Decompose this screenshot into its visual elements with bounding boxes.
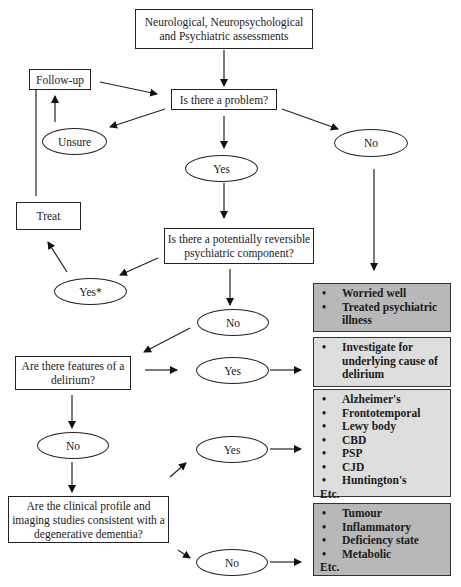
psychiatric-no-label: No [226,317,240,329]
outcome-degenerative-dementias: Alzheimer's Frontotemporal Lewy body CBD… [313,389,451,497]
outcome-item: Metabolic [320,548,444,562]
outcome-item: Treated psychiatric illness [320,301,444,328]
outcome-item: CBD [320,434,444,448]
unsure-label: Unsure [58,136,91,148]
follow-up-label: Follow-up [36,73,84,87]
question-degenerative-dementia: Are the clinical profile and imaging stu… [8,496,169,543]
outcome-item: Inflammatory [320,521,444,535]
treat-node: Treat [16,202,81,230]
outcome-etc: Etc. [320,561,444,575]
psychiatric-yes-label: Yes* [79,286,101,298]
delirium-no-oval: No [37,432,109,459]
degenerative-no-oval: No [196,549,268,576]
outcome-item: Lewy body [320,420,444,434]
degenerative-no-label: No [225,557,239,569]
outcome-item: Worried well [320,287,444,301]
delirium-no-label: No [66,440,80,452]
outcome-item: Huntington's [320,474,444,488]
question-delirium: Are there features of a delirium? [15,356,131,390]
delirium-yes-oval: Yes [196,357,269,384]
outcome-worried-well: Worried well Treated psychiatric illness [313,283,451,332]
treat-label: Treat [37,209,61,223]
question-is-there-a-problem: Is there a problem? [171,89,277,110]
outcome-delirium: Investigate for underlying cause of deli… [313,337,451,387]
question-label: Are the clinical profile and imaging stu… [9,499,168,541]
start-node-label: Neurological, Neuropsychological and Psy… [136,15,312,43]
question-psychiatric-component: Is there a potentially reversible psychi… [164,228,314,264]
psychiatric-yes-oval: Yes* [54,278,127,305]
outcome-other-causes: Tumour Inflammatory Deficiency state Met… [313,503,451,576]
outcome-item: Tumour [320,507,444,521]
problem-no-oval: No [334,129,408,157]
outcome-item: Investigate for underlying cause of deli… [320,341,444,382]
delirium-yes-label: Yes [224,365,241,377]
outcome-item: Frontotemporal [320,407,444,421]
degenerative-yes-label: Yes [224,444,241,456]
outcome-item: Alzheimer's [320,393,444,407]
unsure-oval: Unsure [42,128,107,155]
start-node-assessments: Neurological, Neuropsychological and Psy… [135,9,313,49]
problem-yes-oval: Yes [185,155,258,182]
outcome-item: CJD [320,461,444,475]
question-label: Are there features of a delirium? [16,359,130,387]
outcome-item: PSP [320,447,444,461]
follow-up-node: Follow-up [29,69,91,90]
question-label: Is there a potentially reversible psychi… [165,232,313,260]
problem-yes-label: Yes [213,163,230,175]
degenerative-yes-oval: Yes [196,436,268,463]
problem-no-label: No [364,137,378,149]
outcome-etc: Etc. [320,488,444,502]
outcome-item: Deficiency state [320,534,444,548]
psychiatric-no-oval: No [197,309,269,336]
question-label: Is there a problem? [180,93,268,107]
